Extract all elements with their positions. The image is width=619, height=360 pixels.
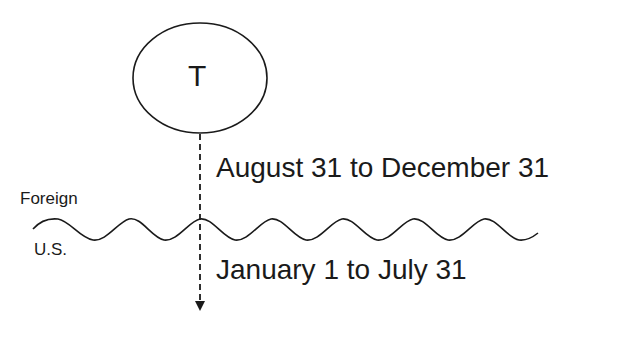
border-label-foreign: Foreign (20, 189, 78, 209)
period-label-foreign: August 31 to December 31 (216, 152, 549, 184)
period-label-us: January 1 to July 31 (216, 254, 467, 286)
border-wave (33, 219, 538, 240)
arrowhead-down-icon (195, 301, 205, 311)
node-label: T (188, 59, 206, 93)
border-label-us: U.S. (34, 240, 67, 260)
